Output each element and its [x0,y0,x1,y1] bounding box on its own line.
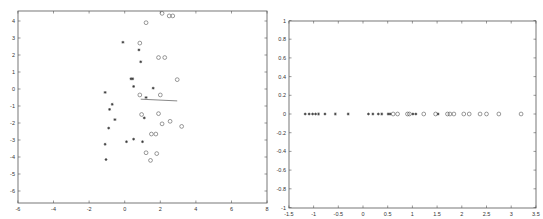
y-tick-label: 4 [12,18,15,24]
circle-marker [144,151,148,155]
x-tick-label: 2 [460,211,463,217]
star-marker [334,113,337,116]
star-marker [104,91,107,94]
circle-marker [171,14,175,18]
circle-marker [180,125,184,129]
star-marker [311,113,314,116]
x-tick-label: 6 [230,206,233,212]
circle-marker [158,93,162,97]
y-tick-label: 0.8 [278,36,286,42]
circle-marker [485,112,489,116]
right-projection-plot: -1.5-1-0.500.511.522.533.5-1-0.8-0.6-0.4… [272,0,543,219]
star-marker [317,113,320,116]
plot-frame [18,11,267,203]
y-tick-label: 0 [283,111,286,117]
circle-marker [160,122,164,126]
star-marker [152,87,155,90]
y-tick-label: -6 [10,188,15,194]
x-tick-label: -4 [51,206,56,212]
y-tick-label: -3 [10,137,15,143]
star-marker [125,140,128,143]
x-tick-label: 2.5 [483,211,491,217]
star-marker [367,113,370,116]
star-marker [107,127,110,130]
star-marker [141,140,144,143]
circle-marker [422,112,426,116]
y-tick-label: -0.2 [277,130,286,136]
circle-marker [167,14,171,18]
x-tick-label: 4 [194,206,197,212]
y-tick-label: -1 [10,103,15,109]
projection-line [141,99,177,101]
star-marker [105,158,108,161]
star-marker [104,143,107,146]
star-marker [304,113,307,116]
star-marker [308,113,311,116]
star-marker [371,113,374,116]
star-marker [411,113,414,116]
circle-marker [163,56,167,60]
y-tick-label: 1 [283,18,286,24]
star-marker [145,96,148,99]
circle-marker [157,112,161,116]
y-tick-label: -0.8 [277,186,286,192]
circle-marker [138,93,142,97]
y-tick-label: -0.4 [277,148,286,154]
star-marker [122,41,125,44]
circle-marker [140,113,144,117]
x-tick-label: -0.5 [334,211,343,217]
x-tick-label: -1.5 [284,211,293,217]
circle-marker [497,112,501,116]
y-tick-label: 0.2 [278,92,286,98]
circle-marker [462,112,466,116]
star-marker [131,77,134,80]
circle-marker [448,112,452,116]
star-marker [108,108,111,111]
circle-marker [519,112,523,116]
circle-marker [175,78,179,82]
y-tick-label: 0.4 [278,74,286,80]
circle-marker [155,152,159,156]
y-tick-label: 1 [12,69,15,75]
x-tick-label: 0 [123,206,126,212]
circle-marker [168,119,172,123]
circle-marker [154,132,158,136]
x-tick-label: -6 [15,206,20,212]
right-plot-canvas: -1.5-1-0.500.511.522.533.5-1-0.8-0.6-0.4… [272,0,543,219]
x-tick-label: 2 [159,206,162,212]
star-marker [143,117,146,120]
star-marker [138,49,141,52]
circle-marker [452,112,456,116]
star-marker [314,113,317,116]
x-tick-label: 8 [266,206,269,212]
circle-marker [138,41,142,45]
x-tick-label: 1 [411,211,414,217]
x-tick-label: 1.5 [433,211,441,217]
circle-marker [149,159,153,163]
star-marker [114,118,117,121]
circle-marker [478,112,482,116]
y-tick-label: 0 [12,86,15,92]
star-marker [111,103,114,106]
x-tick-label: 0.5 [384,211,392,217]
star-marker [377,113,380,116]
x-tick-label: -2 [87,206,92,212]
star-marker [414,113,417,116]
star-marker [139,60,142,63]
y-tick-label: -0.6 [277,167,286,173]
circle-marker [157,56,161,60]
x-tick-label: 3 [510,211,513,217]
y-tick-label: 3 [12,35,15,41]
star-marker [324,113,327,116]
circle-marker [396,112,400,116]
circle-marker [150,132,154,136]
y-tick-label: -5 [10,171,15,177]
circle-marker [144,21,148,25]
y-tick-label: -2 [10,120,15,126]
y-tick-label: -1 [281,205,286,211]
left-plot-canvas: -6-4-202468-6-5-4-3-2-101234 [0,0,272,219]
star-marker [347,113,350,116]
x-tick-label: -1 [311,211,316,217]
x-tick-label: 0 [361,211,364,217]
x-tick-label: 3.5 [532,211,540,217]
